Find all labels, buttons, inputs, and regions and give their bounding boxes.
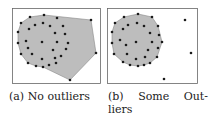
data-point xyxy=(42,66,45,69)
data-point xyxy=(111,31,114,34)
data-point xyxy=(69,79,72,82)
data-point xyxy=(125,44,128,47)
data-point xyxy=(136,22,139,25)
data-point xyxy=(52,49,55,52)
panel-a xyxy=(13,9,101,84)
data-point xyxy=(157,47,160,50)
data-point xyxy=(43,14,46,17)
data-point xyxy=(95,52,98,55)
data-point xyxy=(135,41,138,44)
data-point xyxy=(143,64,146,67)
caption-b-line2: liers xyxy=(108,103,208,116)
data-point xyxy=(151,41,154,44)
data-point xyxy=(27,47,30,50)
caption-b-part: Some xyxy=(138,90,169,103)
data-point xyxy=(56,17,59,20)
data-point xyxy=(17,42,20,45)
data-point xyxy=(149,62,152,65)
data-point xyxy=(65,48,68,51)
data-point xyxy=(42,22,45,25)
data-point xyxy=(25,40,28,43)
caption-b: (b) Some Out- liers xyxy=(108,90,208,116)
data-point xyxy=(27,62,30,65)
data-point xyxy=(41,41,44,44)
data-point xyxy=(126,53,129,56)
data-point xyxy=(123,16,126,19)
data-point xyxy=(90,19,93,22)
data-point xyxy=(144,56,147,59)
data-point xyxy=(41,58,44,61)
data-point xyxy=(184,19,187,22)
data-point xyxy=(190,52,193,55)
data-point xyxy=(17,31,20,34)
data-point xyxy=(54,57,57,60)
data-point xyxy=(28,28,31,31)
data-point xyxy=(113,53,116,56)
data-point xyxy=(163,78,166,81)
data-point xyxy=(122,28,125,31)
data-point xyxy=(147,49,150,52)
data-point xyxy=(60,55,63,58)
data-point xyxy=(20,22,23,25)
data-point xyxy=(49,25,52,28)
caption-a: (a) No outliers xyxy=(9,90,90,103)
data-point xyxy=(64,33,67,36)
data-point xyxy=(48,64,51,67)
data-point xyxy=(151,16,154,19)
data-point xyxy=(156,56,159,59)
data-point xyxy=(127,24,130,27)
data-point xyxy=(55,62,58,65)
data-point xyxy=(122,61,125,64)
data-point xyxy=(137,13,140,16)
data-point xyxy=(129,64,132,67)
data-point xyxy=(54,32,57,35)
data-point xyxy=(29,16,32,19)
data-point xyxy=(67,42,70,45)
data-point xyxy=(158,34,161,37)
data-point xyxy=(161,41,164,44)
caption-b-part: Out- xyxy=(184,90,208,103)
data-point xyxy=(157,25,160,28)
caption-b-part: (b) xyxy=(108,90,124,103)
data-point xyxy=(111,42,114,45)
data-point xyxy=(31,53,34,56)
data-point xyxy=(114,22,117,25)
data-point xyxy=(35,65,38,68)
data-point xyxy=(149,32,152,35)
figure-panels xyxy=(0,0,211,90)
data-point xyxy=(137,65,140,68)
data-point xyxy=(135,58,138,61)
data-point xyxy=(56,41,59,44)
data-point xyxy=(62,25,65,28)
data-point xyxy=(143,25,146,28)
panel-b xyxy=(108,9,198,84)
data-point xyxy=(119,39,122,42)
data-point xyxy=(34,24,37,27)
data-point xyxy=(20,53,23,56)
